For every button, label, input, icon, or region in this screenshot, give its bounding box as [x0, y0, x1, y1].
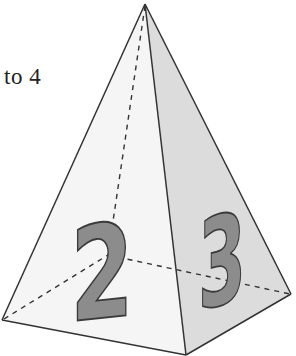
- face-label-3: 3: [198, 184, 246, 339]
- face-label-2: 2: [70, 195, 133, 352]
- pyramid-figure: 2 3: [0, 0, 296, 356]
- svg-text:3: 3: [198, 184, 246, 339]
- svg-text:2: 2: [70, 195, 133, 352]
